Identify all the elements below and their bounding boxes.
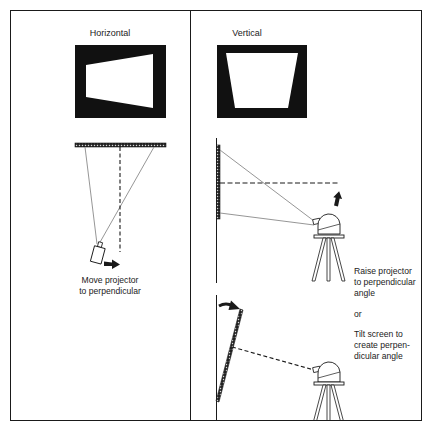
caption-line: to perpendicular bbox=[354, 277, 424, 288]
vertical-keystone-screen bbox=[217, 45, 307, 118]
screen-bar-icon bbox=[75, 143, 166, 147]
or-caption: or bbox=[354, 309, 362, 320]
caption-line: Move projector bbox=[55, 275, 165, 286]
horizontal-keystone-screen bbox=[75, 45, 166, 118]
raise-projector-caption: Raise projector to perpendicular angle bbox=[354, 266, 424, 299]
projector-on-tripod-icon bbox=[312, 362, 345, 427]
vertical-side-view-raise bbox=[217, 138, 346, 283]
tilt-screen-caption: Tilt screen to create perpen- dicular an… bbox=[354, 329, 424, 362]
horizontal-title: Horizontal bbox=[60, 28, 160, 38]
caption-line: create perpen- bbox=[354, 340, 424, 351]
screen-side-icon bbox=[217, 145, 221, 219]
caption-line: Tilt screen to bbox=[354, 329, 424, 340]
caption-line: angle bbox=[354, 288, 424, 299]
caption-line: to perpendicular bbox=[55, 286, 165, 297]
arrow-tilt-icon bbox=[219, 301, 240, 311]
horizontal-top-view bbox=[75, 143, 166, 269]
projector-on-tripod-icon bbox=[312, 214, 345, 281]
arrow-right-icon bbox=[104, 260, 120, 270]
arrow-up-icon bbox=[332, 190, 344, 207]
vertical-side-view-tilt bbox=[216, 295, 345, 427]
keystone-diagram bbox=[0, 0, 432, 432]
caption-line: Raise projector bbox=[354, 266, 424, 277]
projector-icon bbox=[90, 241, 106, 264]
caption-line: dicular angle bbox=[354, 351, 424, 362]
vertical-title: Vertical bbox=[212, 28, 282, 38]
tilted-screen-icon bbox=[216, 309, 243, 402]
horizontal-caption: Move projector to perpendicular bbox=[55, 275, 165, 297]
